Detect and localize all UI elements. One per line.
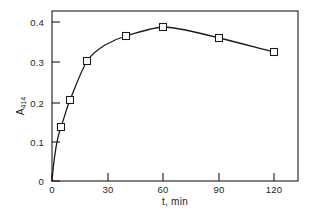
y-axis-title-subscript: 414 <box>20 97 27 109</box>
x-axis-ticks <box>52 173 274 181</box>
data-point <box>67 97 74 104</box>
chart-figure: 0.4 0.3 0.2 0.1 0 0 30 60 90 120 t, min … <box>0 0 315 221</box>
x-tick-label-0: 0 <box>49 184 54 195</box>
y-tick-label-0.1: 0.1 <box>18 137 44 148</box>
data-point <box>271 49 278 56</box>
data-point <box>123 33 130 40</box>
y-tick-label-0.3: 0.3 <box>18 57 44 68</box>
y-axis-title-base: A <box>15 109 26 116</box>
y-axis-ticks <box>52 22 60 181</box>
y-axis-title: A414 <box>15 97 27 115</box>
y-tick-label-0.4: 0.4 <box>18 17 44 28</box>
y-tick-label-0: 0 <box>18 176 44 187</box>
x-tick-label-60: 60 <box>158 184 169 195</box>
data-point <box>84 58 91 65</box>
data-point <box>58 124 65 131</box>
x-axis-title: t, min <box>162 196 188 207</box>
data-point <box>160 24 167 31</box>
data-curve <box>52 27 274 181</box>
data-point <box>216 35 223 42</box>
data-markers <box>58 24 278 131</box>
x-tick-label-120: 120 <box>266 184 282 195</box>
x-tick-label-30: 30 <box>103 184 114 195</box>
plot-frame <box>52 11 298 181</box>
x-tick-label-90: 90 <box>214 184 225 195</box>
